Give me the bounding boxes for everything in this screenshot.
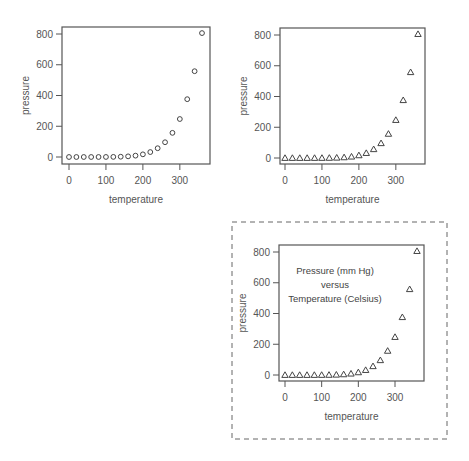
y-tick-label: 200 bbox=[253, 339, 270, 350]
triangle-marker bbox=[304, 155, 310, 161]
y-tick-label: 0 bbox=[47, 152, 53, 163]
triangle-marker bbox=[311, 372, 317, 378]
plot-frame bbox=[62, 27, 210, 164]
triangle-marker bbox=[348, 370, 354, 376]
y-axis: 0200400600800 bbox=[36, 29, 62, 163]
triangle-marker bbox=[348, 153, 354, 159]
triangle-marker bbox=[392, 334, 398, 340]
triangle-marker bbox=[370, 146, 376, 152]
y-tick-label: 800 bbox=[36, 29, 53, 40]
y-tick-label: 800 bbox=[253, 247, 270, 258]
triangle-marker bbox=[415, 31, 421, 37]
triangle-marker bbox=[399, 314, 405, 320]
circle-marker bbox=[118, 154, 123, 159]
circle-marker bbox=[170, 130, 175, 135]
triangle-marker bbox=[384, 348, 390, 354]
circle-marker bbox=[177, 117, 182, 122]
x-tick-label: 300 bbox=[387, 175, 404, 186]
triangle-marker bbox=[414, 248, 420, 254]
x-tick-label: 200 bbox=[351, 175, 368, 186]
circle-marker bbox=[74, 155, 79, 160]
circle-marker bbox=[111, 154, 116, 159]
triangle-marker bbox=[407, 69, 413, 75]
triangle-marker bbox=[318, 372, 324, 378]
y-axis-label: pressure bbox=[20, 76, 31, 115]
triangle-marker bbox=[333, 372, 339, 378]
x-tick-label: 0 bbox=[282, 392, 288, 403]
x-tick-label: 300 bbox=[171, 175, 188, 186]
triangle-marker bbox=[326, 155, 332, 161]
triangle-marker bbox=[311, 155, 317, 161]
circle-marker bbox=[89, 155, 94, 160]
x-tick-label: 0 bbox=[282, 175, 288, 186]
triangle-marker bbox=[297, 155, 303, 161]
x-axis: 0100200300 bbox=[66, 164, 188, 186]
circle-marker bbox=[192, 69, 197, 74]
x-axis: 0100200300 bbox=[282, 381, 404, 403]
x-axis-label: temperature bbox=[109, 194, 163, 205]
circle-marker bbox=[185, 97, 190, 102]
y-axis-label: pressure bbox=[237, 293, 248, 332]
x-tick-label: 300 bbox=[387, 392, 404, 403]
triangle-marker bbox=[319, 155, 325, 161]
y-tick-label: 0 bbox=[265, 153, 271, 164]
plot-3: 02004006008000100200300temperaturepressu… bbox=[232, 222, 447, 439]
figure-canvas: 02004006008000100200300temperaturepressu… bbox=[0, 0, 469, 461]
x-tick-label: 100 bbox=[98, 175, 115, 186]
circle-marker bbox=[96, 155, 101, 160]
triangle-marker bbox=[370, 363, 376, 369]
y-tick-label: 400 bbox=[253, 308, 270, 319]
annotation-line: Pressure (mm Hg) bbox=[296, 265, 374, 276]
circle-marker bbox=[163, 140, 168, 145]
y-tick-label: 0 bbox=[264, 370, 270, 381]
triangle-marker bbox=[282, 155, 288, 161]
triangle-marker bbox=[355, 369, 361, 375]
plot-frame bbox=[280, 28, 425, 164]
x-tick-label: 200 bbox=[135, 175, 152, 186]
circle-marker bbox=[140, 152, 145, 157]
triangle-marker bbox=[289, 372, 295, 378]
triangle-marker bbox=[378, 140, 384, 146]
x-axis-label: temperature bbox=[326, 194, 380, 205]
y-axis: 0200400600800 bbox=[254, 30, 280, 164]
x-tick-label: 100 bbox=[314, 175, 331, 186]
y-tick-label: 400 bbox=[254, 91, 271, 102]
y-tick-label: 600 bbox=[254, 60, 271, 71]
circle-marker bbox=[155, 146, 160, 151]
triangle-marker bbox=[362, 367, 368, 373]
circle-marker bbox=[67, 155, 72, 160]
triangle-marker bbox=[377, 357, 383, 363]
data-points bbox=[67, 31, 205, 160]
circle-marker bbox=[104, 155, 109, 160]
y-tick-label: 400 bbox=[36, 90, 53, 101]
y-tick-label: 200 bbox=[254, 122, 271, 133]
circle-marker bbox=[126, 154, 131, 159]
triangle-marker bbox=[400, 97, 406, 103]
triangle-marker bbox=[341, 154, 347, 160]
triangle-marker bbox=[356, 152, 362, 158]
triangle-marker bbox=[393, 117, 399, 123]
annotation-text: Pressure (mm Hg)versusTemperature (Celsi… bbox=[288, 265, 381, 304]
circle-marker bbox=[148, 150, 153, 155]
triangle-marker bbox=[385, 131, 391, 137]
x-axis-label: temperature bbox=[325, 411, 379, 422]
y-tick-label: 200 bbox=[36, 121, 53, 132]
x-tick-label: 100 bbox=[313, 392, 330, 403]
y-tick-label: 600 bbox=[253, 277, 270, 288]
y-tick-label: 600 bbox=[36, 59, 53, 70]
triangle-marker bbox=[296, 372, 302, 378]
circle-marker bbox=[200, 31, 205, 36]
y-axis-label: pressure bbox=[238, 76, 249, 115]
triangle-marker bbox=[289, 155, 295, 161]
circle-marker bbox=[133, 153, 138, 158]
plot-1: 02004006008000100200300temperaturepressu… bbox=[20, 27, 210, 205]
triangle-marker bbox=[406, 286, 412, 292]
x-tick-label: 200 bbox=[350, 392, 367, 403]
triangle-marker bbox=[326, 372, 332, 378]
annotation-line: versus bbox=[321, 279, 349, 290]
y-axis: 0200400600800 bbox=[253, 247, 279, 381]
triangle-marker bbox=[334, 155, 340, 161]
triangle-marker bbox=[304, 372, 310, 378]
triangle-marker bbox=[363, 150, 369, 156]
x-axis: 0100200300 bbox=[282, 164, 404, 186]
